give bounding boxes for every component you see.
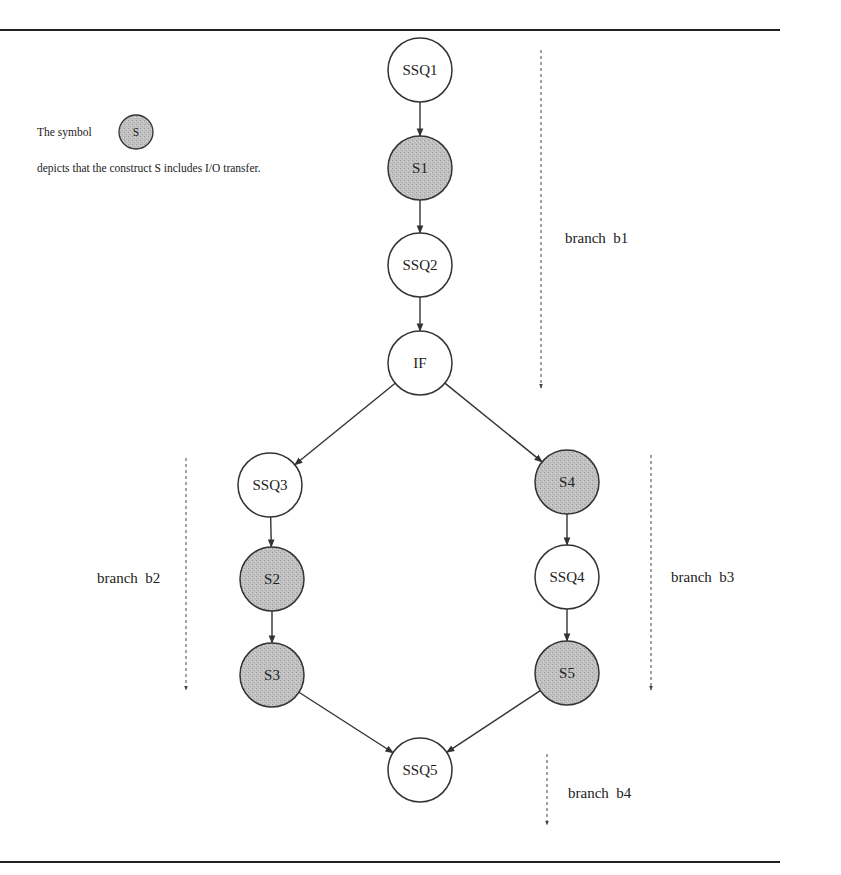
- node-label: SSQ5: [402, 762, 437, 778]
- node-ssq3: SSQ3: [238, 453, 302, 517]
- branch-label: branch b3: [671, 569, 734, 585]
- edge-if-to-ssq3: [295, 383, 395, 465]
- legend-prefix: The symbol: [37, 126, 92, 139]
- node-label: SSQ1: [402, 62, 437, 78]
- node-s2: S2: [240, 547, 304, 611]
- edge-if-to-s4: [445, 383, 542, 462]
- branch-label: branch b4: [568, 785, 632, 801]
- node-label: SSQ3: [252, 477, 287, 493]
- node-s3: S3: [240, 643, 304, 707]
- legend-symbol-label: S: [133, 126, 139, 138]
- branch-label: branch b1: [565, 230, 628, 246]
- node-label: S4: [559, 474, 575, 490]
- node-ssq1: SSQ1: [388, 38, 452, 102]
- edge-s5-to-ssq5: [447, 691, 541, 753]
- node-s5: S5: [535, 641, 599, 705]
- node-ssq5: SSQ5: [388, 738, 452, 802]
- node-label: SSQ2: [402, 257, 437, 273]
- node-label: IF: [413, 355, 426, 371]
- branch-label: branch b2: [97, 570, 160, 586]
- node-s1: S1: [388, 136, 452, 200]
- legend-description: depicts that the construct S includes I/…: [37, 162, 261, 175]
- node-label: S5: [559, 665, 575, 681]
- branch-indicator: branch b2: [97, 458, 186, 690]
- node-label: S2: [264, 571, 280, 587]
- edge-ssq3-to-s2: [271, 517, 272, 547]
- node-label: S1: [412, 160, 428, 176]
- nodes-layer: SSQ1S1SSQ2IFSSQ3S2S3S4SSQ4S5SSQ5: [238, 38, 599, 802]
- branch-indicator: branch b1: [541, 50, 628, 388]
- control-flow-diagram: branch b1branch b2branch b3branch b4 SSQ…: [0, 0, 841, 875]
- legend: The symbol S depicts that the construct …: [37, 115, 261, 175]
- node-label: SSQ4: [549, 569, 585, 585]
- node-s4: S4: [535, 450, 599, 514]
- node-if: IF: [388, 331, 452, 395]
- node-ssq2: SSQ2: [388, 233, 452, 297]
- edge-s3-to-ssq5: [299, 692, 393, 752]
- node-ssq4: SSQ4: [535, 545, 599, 609]
- branch-indicator: branch b3: [651, 455, 734, 690]
- branch-indicator: branch b4: [547, 754, 632, 825]
- node-label: S3: [264, 667, 280, 683]
